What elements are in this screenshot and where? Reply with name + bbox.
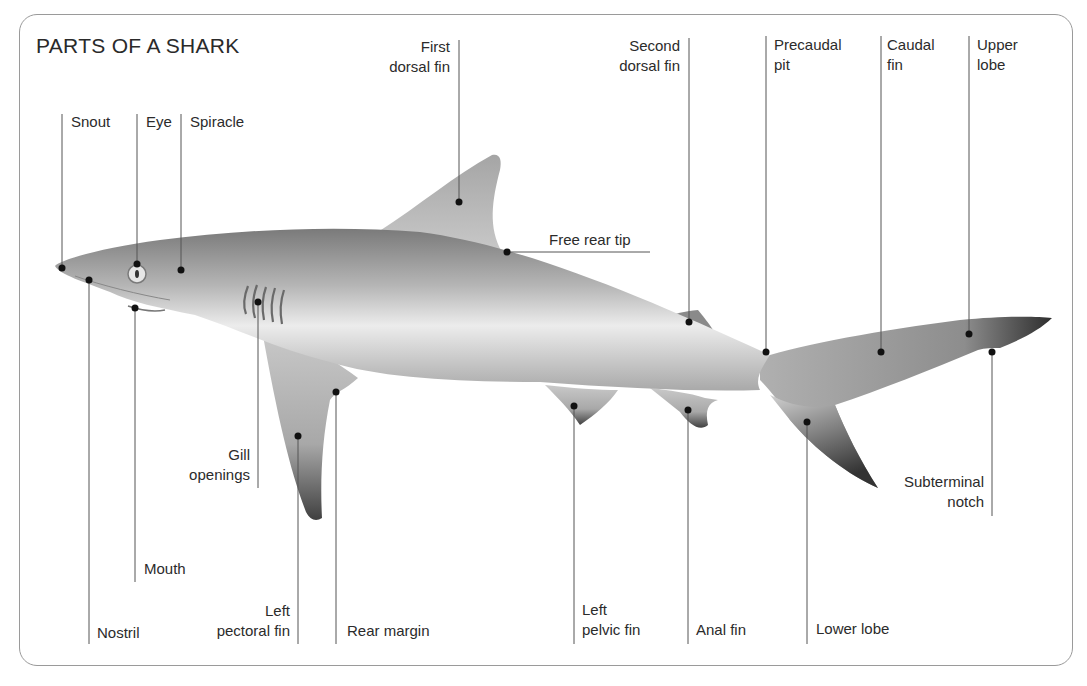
label-first-dorsal-fin-line1: First [421, 37, 450, 57]
shark-body [55, 229, 770, 391]
label-subterminal-notch-line1: Subterminal [904, 472, 984, 492]
label-mouth: Mouth [144, 559, 186, 579]
label-left-pelvic-fin-line1: Left [582, 600, 607, 620]
label-anal-fin: Anal fin [696, 620, 746, 640]
label-caudal-fin-line2: fin [887, 55, 903, 75]
caudal-fin [760, 317, 1052, 488]
label-gill-openings-line2: openings [189, 465, 250, 485]
label-precaudal-pit-line2: pit [774, 55, 790, 75]
label-caudal-fin-line1: Caudal [887, 35, 935, 55]
label-free-rear-tip: Free rear tip [549, 230, 631, 250]
left-pelvic-fin [545, 385, 618, 425]
label-spiracle: Spiracle [190, 112, 244, 132]
label-gill-openings-line1: Gill [228, 445, 250, 465]
label-left-pectoral-fin-line2: pectoral fin [217, 621, 290, 641]
label-left-pelvic-fin-line2: pelvic fin [582, 620, 640, 640]
label-eye: Eye [146, 112, 172, 132]
label-upper-lobe-line2: lobe [977, 55, 1005, 75]
label-second-dorsal-fin-line1: Second [629, 36, 680, 56]
shark-illustration [0, 0, 1087, 686]
label-rear-margin: Rear margin [347, 621, 430, 641]
anal-fin [650, 388, 718, 428]
label-precaudal-pit-line1: Precaudal [774, 35, 842, 55]
label-left-pectoral-fin-line1: Left [265, 601, 290, 621]
label-snout: Snout [71, 112, 110, 132]
label-subterminal-notch-line2: notch [947, 492, 984, 512]
label-first-dorsal-fin-line2: dorsal fin [389, 57, 450, 77]
label-second-dorsal-fin-line2: dorsal fin [619, 56, 680, 76]
label-upper-lobe-line1: Upper [977, 35, 1018, 55]
label-lower-lobe: Lower lobe [816, 619, 889, 639]
label-nostril: Nostril [97, 623, 140, 643]
